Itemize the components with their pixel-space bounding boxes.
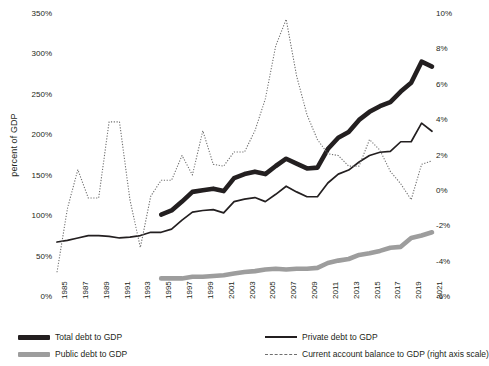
legend-swatch-icon-private_debt — [265, 332, 297, 342]
x-tick-2003: 2003 — [249, 281, 257, 299]
x-tick-1995: 1995 — [165, 281, 173, 299]
x-tick-1985: 1985 — [61, 281, 69, 299]
legend-label: Current account balance to GDP (right ax… — [302, 349, 489, 359]
legend-swatch-icon-current_account — [265, 349, 297, 359]
legend-swatch-icon-public_debt — [18, 349, 50, 359]
legend-item-public_debt[interactable]: Public debt to GDP — [18, 349, 127, 359]
x-tick-2009: 2009 — [311, 281, 319, 299]
legend-label: Public debt to GDP — [55, 349, 127, 359]
legend-item-total_debt[interactable]: Total debt to GDP — [18, 332, 122, 342]
x-tick-2007: 2007 — [290, 281, 298, 299]
x-tick-2019: 2019 — [415, 281, 423, 299]
x-tick-1989: 1989 — [103, 281, 111, 299]
legend-item-current_account[interactable]: Current account balance to GDP (right ax… — [265, 349, 489, 359]
x-tick-1999: 1999 — [207, 281, 215, 299]
legend-label: Total debt to GDP — [55, 332, 122, 342]
x-tick-2013: 2013 — [353, 281, 361, 299]
legend-label: Private debt to GDP — [302, 332, 378, 342]
x-tick-1997: 1997 — [186, 281, 194, 299]
x-tick-1993: 1993 — [144, 281, 152, 299]
x-tick-1987: 1987 — [82, 281, 90, 299]
legend-swatch-icon-total_debt — [18, 332, 50, 342]
chart-legend: Total debt to GDPPrivate debt to GDPPubl… — [0, 330, 487, 366]
x-tick-2015: 2015 — [374, 281, 382, 299]
x-tick-2011: 2011 — [332, 282, 340, 299]
x-tick-2001: 2001 — [228, 281, 236, 299]
x-tick-1991: 1991 — [124, 281, 132, 299]
x-tick-2017: 2017 — [394, 281, 402, 299]
x-tick-2005: 2005 — [269, 281, 277, 299]
x-tick-2021: 2021 — [436, 281, 444, 299]
legend-item-private_debt[interactable]: Private debt to GDP — [265, 332, 378, 342]
